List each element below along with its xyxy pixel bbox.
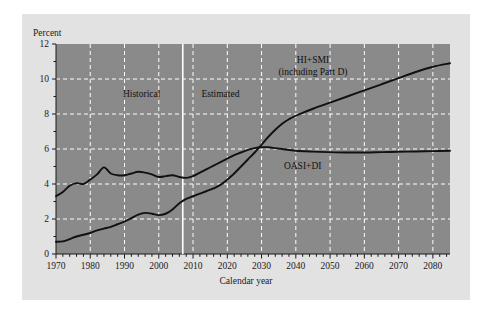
- y-axis-title: Percent: [33, 28, 62, 38]
- series-label-hi-smi: (including Part D): [278, 67, 347, 78]
- x-tick-label: 2060: [355, 261, 374, 271]
- x-tick-label: 2050: [321, 261, 340, 271]
- annotation-estimated: Estimated: [201, 89, 239, 99]
- x-tick-label: 2070: [389, 261, 408, 271]
- series-label-hi-smi: HI+SMI: [297, 55, 329, 65]
- series-label-oasi-di: OASI+DI: [284, 161, 322, 171]
- y-tick-label: 2: [44, 214, 49, 224]
- y-tick-label: 6: [44, 144, 49, 154]
- annotation-historical: Historical: [123, 89, 161, 99]
- x-tick-label: 2000: [149, 261, 168, 271]
- x-axis-title: Calendar year: [22, 276, 470, 286]
- x-tick-label: 1970: [47, 261, 66, 271]
- x-tick-label: 1980: [81, 261, 100, 271]
- y-tick-label: 12: [40, 39, 50, 49]
- y-tick-label: 4: [44, 179, 49, 189]
- x-tick-label: 2020: [218, 261, 237, 271]
- y-tick-label: 10: [40, 74, 50, 84]
- chart-canvas: 0246810121970198019902000201020202030204…: [22, 14, 470, 300]
- x-tick-label: 1990: [115, 261, 134, 271]
- x-tick-label: 2040: [286, 261, 305, 271]
- y-tick-label: 8: [44, 109, 49, 119]
- x-tick-label: 2010: [184, 261, 203, 271]
- x-tick-label: 2080: [423, 261, 442, 271]
- x-tick-label: 2030: [252, 261, 271, 271]
- figure-panel: 0246810121970198019902000201020202030204…: [22, 14, 470, 300]
- y-tick-label: 0: [44, 249, 49, 259]
